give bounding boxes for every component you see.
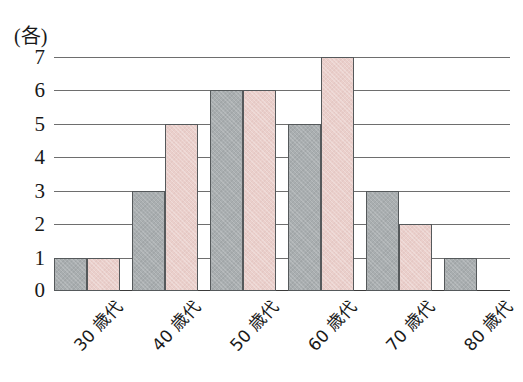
y-axis-tick-label: 5: [35, 114, 46, 135]
bar-pink: [399, 224, 432, 291]
bar-pink: [321, 57, 354, 291]
bar-group: [444, 57, 510, 291]
x-axis-category-label: 40 歳代: [149, 298, 203, 354]
y-axis-tick-label: 6: [35, 80, 46, 101]
bar-pink: [87, 258, 120, 291]
y-axis-tick-label: 0: [35, 280, 46, 301]
bar-pink: [243, 90, 276, 291]
x-axis-category-label: 50 歳代: [227, 298, 281, 354]
bar-gray: [132, 191, 165, 291]
y-axis-unit-label: (各): [14, 26, 47, 46]
bar-group: [54, 57, 120, 291]
bar-gray: [288, 124, 321, 291]
x-axis-category-label: 80 歳代: [461, 298, 515, 354]
bar-group: [366, 57, 432, 291]
y-axis-tick-label: 3: [35, 181, 46, 202]
bar-gray: [54, 258, 87, 291]
x-axis-category-label: 60 歳代: [305, 298, 359, 354]
y-axis-tick-label: 4: [35, 147, 46, 168]
bar-series-container: [54, 57, 510, 291]
bar-pink: [165, 124, 198, 291]
x-axis-labels: 30 歳代40 歳代50 歳代60 歳代70 歳代80 歳代: [54, 292, 510, 380]
bar-group: [132, 57, 198, 291]
plot-area: 01234567: [54, 57, 510, 291]
bar-group: [288, 57, 354, 291]
y-axis-tick-label: 1: [35, 248, 46, 269]
bar-chart: (各) 01234567 30 歳代40 歳代50 歳代60 歳代70 歳代80…: [0, 0, 523, 382]
bar-gray: [444, 258, 477, 291]
bar-gray: [210, 90, 243, 291]
y-axis-tick-label: 2: [35, 214, 46, 235]
bar-group: [210, 57, 276, 291]
y-axis-tick-label: 7: [35, 47, 46, 68]
bar-gray: [366, 191, 399, 291]
x-axis-category-label: 30 歳代: [71, 298, 125, 354]
x-axis-category-label: 70 歳代: [383, 298, 437, 354]
